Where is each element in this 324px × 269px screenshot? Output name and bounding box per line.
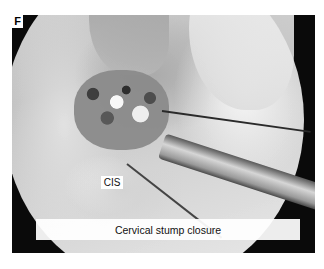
caption-text: Cervical stump closure xyxy=(115,224,221,236)
cis-label: CIS xyxy=(101,176,123,189)
tissue-fold-right xyxy=(189,15,294,110)
surgical-photo xyxy=(12,15,315,253)
panel-letter: F xyxy=(12,15,23,28)
endoscope-view-circle xyxy=(12,15,304,253)
tissue-fold-left xyxy=(89,15,169,75)
caption-box: Cervical stump closure xyxy=(36,219,300,240)
cervical-stump-tissue xyxy=(74,70,169,150)
